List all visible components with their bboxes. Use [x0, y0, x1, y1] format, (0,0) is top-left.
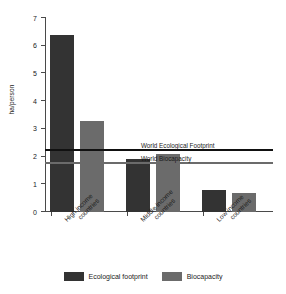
y-axis-tick-label: 0 [23, 209, 37, 216]
ecological-footprint-bar-chart: ha/person 01234567 High incomecountriesM… [0, 0, 286, 294]
bar-ecological-footprint [202, 190, 226, 212]
y-axis-tick-label: 4 [23, 98, 37, 105]
legend-label: Ecological footprint [89, 273, 148, 281]
legend-swatch [64, 272, 84, 281]
y-axis-tick-label: 2 [23, 153, 37, 160]
y-axis-tick [41, 17, 46, 18]
y-axis-tick [41, 45, 46, 46]
y-axis-tick-label: 5 [23, 70, 37, 77]
y-axis-tick-label: 3 [23, 125, 37, 132]
legend-label: Biocapacity [187, 273, 223, 281]
y-axis-title: ha/person [8, 70, 15, 130]
x-axis-tick [51, 212, 52, 216]
y-axis-tick-label: 7 [23, 15, 37, 22]
reference-line-world-biocapacity [45, 162, 273, 163]
x-axis-tick [203, 212, 204, 216]
y-axis-tick [41, 183, 46, 184]
reference-line-world-ecological-footprint [45, 149, 273, 151]
x-axis-tick [127, 212, 128, 216]
y-axis-tick-label: 1 [23, 181, 37, 188]
y-axis-tick [41, 211, 46, 212]
bar-ecological-footprint [126, 159, 150, 212]
bar-ecological-footprint [50, 35, 74, 212]
reference-line-label: World Ecological Footprint [141, 142, 214, 149]
plot-area: 01234567 [45, 18, 273, 212]
y-axis-tick [41, 72, 46, 73]
legend-swatch [162, 272, 182, 281]
legend-item: Ecological footprint [64, 272, 148, 281]
chart-legend: Ecological footprintBiocapacity [0, 272, 286, 281]
reference-line-label: World Biocapacity [141, 155, 191, 162]
y-axis-tick [41, 128, 46, 129]
y-axis-tick-label: 6 [23, 42, 37, 49]
y-axis-tick [41, 100, 46, 101]
legend-item: Biocapacity [162, 272, 223, 281]
y-axis-tick [41, 156, 46, 157]
